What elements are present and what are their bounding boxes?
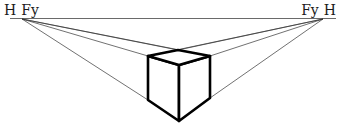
horizon-label-left: H bbox=[4, 2, 16, 18]
cube-right-face bbox=[179, 56, 210, 121]
cube-left-face bbox=[148, 56, 179, 121]
horizon-label-right: H bbox=[324, 2, 336, 18]
cube bbox=[148, 50, 210, 121]
perspective-drawing bbox=[0, 0, 342, 136]
perspective-diagram: HFy FyH bbox=[0, 0, 342, 136]
vanishing-point-label-left: Fy bbox=[21, 2, 39, 18]
left-labels: HFy bbox=[4, 3, 39, 17]
right-labels: FyH bbox=[301, 3, 336, 17]
right-line-to-top-right bbox=[210, 19, 323, 56]
left-line-to-top-left bbox=[22, 19, 148, 56]
vanishing-point-label-right: Fy bbox=[301, 2, 319, 18]
